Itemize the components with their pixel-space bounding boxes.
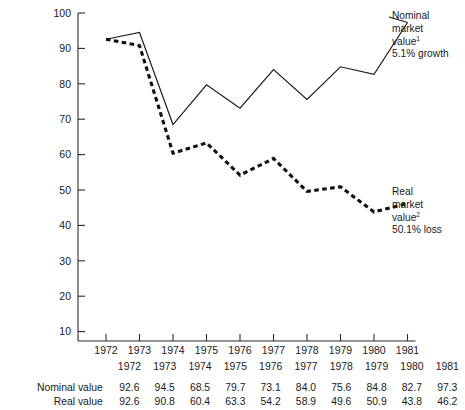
table-year-header: 1973 <box>147 357 182 381</box>
table-row: Nominal value92.694.568.579.773.184.075.… <box>0 381 465 395</box>
table-year-header: 1980 <box>394 357 429 381</box>
table-cell: 46.2 <box>430 395 465 409</box>
table-cell: 60.4 <box>182 395 217 409</box>
annotation-nominal-growth: 5.1% growth <box>392 48 449 61</box>
annotation-nominal-line-3: value1 <box>392 36 449 49</box>
values-table: 1972197319741975197619771978197919801981… <box>0 357 465 409</box>
table-year-header: 1974 <box>182 357 217 381</box>
y-axis-tick-label: 60 <box>59 148 71 160</box>
table-cell: 84.8 <box>359 381 394 395</box>
x-axis-tick-label: 1979 <box>329 344 353 356</box>
x-axis-tick-label: 1975 <box>195 344 219 356</box>
x-axis: 1972197319741975197619771978197919801981 <box>78 334 419 356</box>
series-line-nominal <box>106 23 408 125</box>
x-axis-tick-label: 1977 <box>262 344 286 356</box>
y-axis-tick-label: 30 <box>59 255 71 267</box>
y-axis-tick-label: 50 <box>59 184 71 196</box>
table-cell: 50.9 <box>359 395 394 409</box>
table-row: Real value92.690.860.463.354.258.949.650… <box>0 395 465 409</box>
y-axis-tick-label: 70 <box>59 113 71 125</box>
annotation-real-loss: 50.1% loss <box>392 224 442 237</box>
table-year-header: 1977 <box>288 357 323 381</box>
y-axis: 102030405060708090100 <box>53 7 85 341</box>
table-year-header: 1972 <box>112 357 147 381</box>
table-cell: 54.2 <box>253 395 288 409</box>
x-axis-tick-label: 1978 <box>295 344 319 356</box>
x-axis-tick-label: 1981 <box>396 344 420 356</box>
annotation-nominal-line-1: Nominal <box>392 10 449 23</box>
y-axis-tick-label: 40 <box>59 219 71 231</box>
table-row-label: Nominal value <box>0 381 112 395</box>
table-cell: 82.7 <box>394 381 429 395</box>
table-cell: 84.0 <box>288 381 323 395</box>
table-year-header: 1976 <box>253 357 288 381</box>
footnote-marker-2: 2 <box>416 210 420 217</box>
table-cell: 97.3 <box>430 381 465 395</box>
y-axis-tick-label: 80 <box>59 78 71 90</box>
y-axis-tick-label: 100 <box>53 7 71 19</box>
table-cell: 79.7 <box>218 381 253 395</box>
y-axis-tick-label: 20 <box>59 290 71 302</box>
table-cell: 49.6 <box>324 395 359 409</box>
y-axis-tick-label: 90 <box>59 42 71 54</box>
annotation-real-line-1: Real <box>392 186 442 199</box>
table-corner-cell <box>0 357 112 381</box>
table-cell: 94.5 <box>147 381 182 395</box>
table-header-row: 1972197319741975197619771978197919801981 <box>0 357 465 381</box>
x-axis-tick-label: 1972 <box>94 344 118 356</box>
x-axis-tick-label: 1980 <box>362 344 386 356</box>
y-axis-tick-label: 10 <box>59 325 71 337</box>
x-axis-tick-label: 1973 <box>128 344 152 356</box>
table-year-header: 1979 <box>359 357 394 381</box>
annotation-real-line-3: value2 <box>392 212 442 225</box>
data-series-group <box>106 17 408 212</box>
annotation-nominal-market-value: Nominal market value1 5.1% growth <box>392 10 449 61</box>
footnote-marker-1: 1 <box>416 34 420 41</box>
table-row-label: Real value <box>0 395 112 409</box>
table-year-header: 1975 <box>218 357 253 381</box>
data-table: 1972197319741975197619771978197919801981… <box>0 357 465 409</box>
annotation-real-value-word: value <box>392 212 416 223</box>
table-cell: 73.1 <box>253 381 288 395</box>
table-cell: 92.6 <box>112 395 147 409</box>
annotation-real-market-value: Real market value2 50.1% loss <box>392 186 442 237</box>
table-year-header: 1978 <box>324 357 359 381</box>
table-cell: 92.6 <box>112 381 147 395</box>
annotation-nominal-value-word: value <box>392 36 416 47</box>
table-cell: 75.6 <box>324 381 359 395</box>
annotation-nominal-line-2: market <box>392 23 449 36</box>
table-cell: 63.3 <box>218 395 253 409</box>
x-axis-tick-label: 1976 <box>228 344 252 356</box>
table-cell: 58.9 <box>288 395 323 409</box>
table-year-header: 1981 <box>430 357 465 381</box>
table-cell: 43.8 <box>394 395 429 409</box>
x-axis-tick-label: 1974 <box>161 344 185 356</box>
table-cell: 90.8 <box>147 395 182 409</box>
table-cell: 68.5 <box>182 381 217 395</box>
